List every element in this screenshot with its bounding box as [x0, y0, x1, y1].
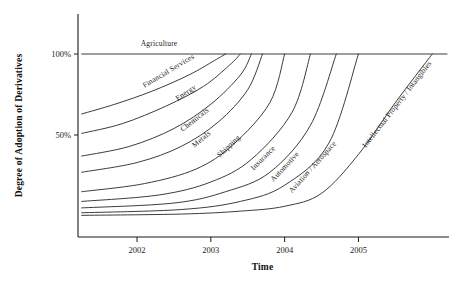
- series-label: Agriculture: [141, 39, 178, 48]
- series-label: Intellectual Property / Intangibles: [360, 59, 433, 149]
- x-axis-title: Time: [252, 262, 274, 272]
- y-tick-label: 50%: [55, 130, 71, 140]
- adoption-of-derivatives-chart: 50%100%2002200320042005TimeDegree of Ado…: [0, 0, 464, 282]
- series-label-group: AgricultureFinancial ServicesEnergyChemi…: [141, 39, 434, 195]
- series-curve: [82, 54, 433, 215]
- x-tick-group: 2002200320042005: [129, 237, 367, 255]
- x-tick-label: 2003: [202, 245, 219, 255]
- x-tick-label: 2002: [129, 245, 146, 255]
- curve-group: [82, 54, 447, 215]
- series-label: Shipping: [215, 133, 242, 159]
- y-axis-title: Degree of Adoption of Derivatives: [14, 54, 24, 198]
- x-tick-label: 2005: [350, 245, 367, 255]
- y-tick-label: 100%: [51, 49, 71, 59]
- chart-canvas: 50%100%2002200320042005TimeDegree of Ado…: [0, 0, 464, 282]
- axes: [78, 14, 449, 237]
- series-label: Metals: [190, 129, 212, 150]
- series-curve: [82, 54, 241, 133]
- y-tick-group: 50%100%: [51, 49, 78, 140]
- x-tick-label: 2004: [276, 245, 294, 255]
- series-curve: [82, 54, 359, 213]
